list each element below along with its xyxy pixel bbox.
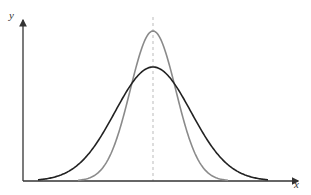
y-axis-label: y: [9, 9, 14, 21]
normal-curves-diagram: [0, 0, 311, 195]
x-axis-label: x: [294, 178, 299, 190]
